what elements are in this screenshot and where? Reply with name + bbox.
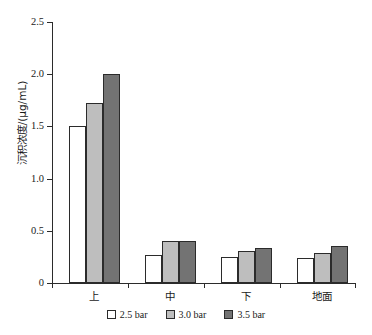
- bar: [145, 255, 162, 283]
- bar: [297, 258, 314, 283]
- bar: [255, 248, 272, 283]
- x-axis-tick: [280, 283, 281, 288]
- bar: [238, 251, 255, 283]
- legend-item: 2.5 bar: [107, 309, 148, 320]
- legend-label: 3.0 bar: [179, 309, 207, 320]
- y-axis-tick-label: 2.5: [31, 15, 44, 28]
- y-axis-tick: 1.5: [47, 126, 52, 127]
- y-axis-tick: 2.0: [47, 74, 52, 75]
- y-axis-line: [52, 22, 53, 283]
- legend-swatch-icon: [107, 310, 116, 319]
- bar: [314, 253, 331, 283]
- bar: [331, 246, 348, 283]
- y-axis-tick-label: 1.5: [31, 119, 44, 132]
- x-axis-tick: [355, 283, 356, 288]
- legend-label: 3.5 bar: [237, 309, 265, 320]
- x-axis-category-label: 下: [216, 288, 276, 303]
- bar-chart: 沉积浓度/(μg/mL) 00.51.01.52.02.5 上中下地面 2.5 …: [0, 0, 372, 335]
- bar: [86, 103, 103, 283]
- legend-item: 3.0 bar: [166, 309, 207, 320]
- x-axis-category-label: 上: [64, 288, 124, 303]
- legend-item: 3.5 bar: [224, 309, 265, 320]
- x-axis-tick: [52, 283, 53, 288]
- y-axis-tick-label: 2.0: [31, 67, 44, 80]
- x-axis-category-label: 中: [140, 288, 200, 303]
- chart-legend: 2.5 bar3.0 bar3.5 bar: [0, 309, 372, 320]
- x-axis-tick: [128, 283, 129, 288]
- bar: [179, 241, 196, 283]
- legend-swatch-icon: [224, 310, 233, 319]
- y-axis-tick-label: 0: [39, 276, 44, 289]
- y-axis-tick-label: 1.0: [31, 172, 44, 185]
- plot-area: 00.51.01.52.02.5: [52, 22, 356, 283]
- legend-label: 2.5 bar: [120, 309, 148, 320]
- x-axis-category-label: 地面: [292, 288, 352, 303]
- y-axis-title: 沉积浓度/(μg/mL): [14, 18, 28, 228]
- bar: [103, 74, 120, 283]
- bar: [221, 257, 238, 283]
- y-axis-tick: 1.0: [47, 179, 52, 180]
- y-axis-tick-label: 0.5: [31, 224, 44, 237]
- legend-swatch-icon: [166, 310, 175, 319]
- y-axis-tick: 2.5: [47, 22, 52, 23]
- y-axis-tick: 0.5: [47, 231, 52, 232]
- bar: [69, 126, 86, 283]
- x-axis-tick: [204, 283, 205, 288]
- bar: [162, 241, 179, 283]
